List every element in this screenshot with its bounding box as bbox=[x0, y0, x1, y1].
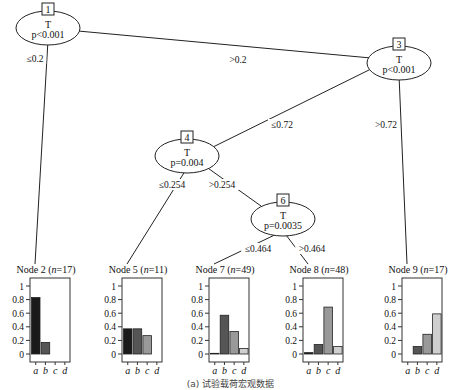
x-category-label: b bbox=[415, 365, 420, 376]
edge-label: ≤0.72 bbox=[271, 120, 293, 130]
p-value: p=0.0035 bbox=[264, 220, 302, 231]
edge-label: ≤0.254 bbox=[159, 180, 186, 190]
inner-node-3: 3Tp<0.001 bbox=[367, 38, 431, 80]
y-tick-label: 1 bbox=[111, 282, 116, 292]
y-tick-label: 0.4 bbox=[12, 322, 24, 332]
x-category-label: a bbox=[212, 365, 217, 376]
x-category-label: d bbox=[241, 365, 247, 376]
x-category-label: b bbox=[43, 365, 48, 376]
bar-c bbox=[324, 307, 333, 354]
inner-node-1: 1Tp<0.001 bbox=[16, 3, 80, 45]
y-tick-label: 0.4 bbox=[285, 322, 297, 332]
y-tick-label: 0.6 bbox=[12, 309, 24, 319]
y-tick-label: 0.8 bbox=[384, 295, 396, 305]
y-tick-label: 0 bbox=[111, 350, 116, 360]
bar-d bbox=[240, 349, 249, 354]
y-tick-label: 0.8 bbox=[104, 295, 116, 305]
bar-b bbox=[133, 329, 142, 354]
y-tick-label: 0 bbox=[19, 350, 24, 360]
bar-a bbox=[305, 353, 314, 354]
terminal-node-title: Node 8 (n=48) bbox=[290, 264, 349, 276]
bar-b bbox=[220, 315, 229, 354]
bar-b bbox=[41, 342, 50, 354]
bar-c bbox=[423, 334, 432, 354]
node-id: 4 bbox=[185, 132, 190, 143]
y-tick-label: 1 bbox=[198, 282, 203, 292]
x-category-label: b bbox=[135, 365, 140, 376]
y-tick-label: 0.6 bbox=[104, 309, 116, 319]
edge-label: >0.254 bbox=[209, 180, 236, 190]
terminal-node-title: Node 5 (n=11) bbox=[109, 264, 168, 276]
edge-label: ≤0.464 bbox=[245, 244, 272, 254]
terminal-nodes: Node 2 (n=17)00.20.40.60.81abcdNode 5 (n… bbox=[12, 264, 447, 376]
x-category-label: c bbox=[232, 365, 237, 376]
terminal-node-title: Node 7 (n=49) bbox=[196, 264, 255, 276]
edge-label: >0.72 bbox=[375, 120, 397, 130]
decision-tree-diagram: ≤0.2>0.2≤0.72>0.72≤0.254>0.254≤0.464>0.4… bbox=[0, 0, 461, 390]
p-value: p<0.001 bbox=[382, 64, 415, 75]
y-tick-label: 0.8 bbox=[285, 295, 297, 305]
y-tick-label: 0 bbox=[198, 350, 203, 360]
edge-label: ≤0.2 bbox=[26, 54, 43, 64]
x-category-label: c bbox=[425, 365, 430, 376]
y-tick-label: 0.2 bbox=[384, 336, 396, 346]
terminal-node-2: Node 2 (n=17)00.20.40.60.81abcd bbox=[12, 264, 75, 376]
edge-label: >0.464 bbox=[299, 244, 326, 254]
x-category-label: d bbox=[62, 365, 68, 376]
p-value: p=0.004 bbox=[170, 157, 203, 168]
figure-caption: (a) 试验载荷宏观数据 bbox=[0, 377, 461, 390]
y-tick-label: 1 bbox=[391, 282, 396, 292]
node-id: 3 bbox=[397, 39, 402, 50]
x-category-label: a bbox=[33, 365, 38, 376]
x-category-label: a bbox=[306, 365, 311, 376]
edge-1-3 bbox=[78, 31, 371, 58]
p-value: p<0.001 bbox=[31, 29, 64, 40]
tree-edges bbox=[35, 31, 407, 264]
y-tick-label: 0.2 bbox=[285, 336, 297, 346]
x-category-label: a bbox=[405, 365, 410, 376]
bar-d bbox=[334, 347, 343, 354]
x-category-label: d bbox=[434, 365, 440, 376]
bar-c bbox=[230, 332, 239, 354]
edge-3-9 bbox=[399, 75, 407, 264]
x-category-label: d bbox=[335, 365, 341, 376]
x-category-label: d bbox=[154, 365, 160, 376]
y-tick-label: 0.2 bbox=[12, 336, 24, 346]
y-tick-label: 0.2 bbox=[104, 336, 116, 346]
y-tick-label: 0.4 bbox=[104, 322, 116, 332]
x-category-label: c bbox=[53, 365, 58, 376]
y-tick-label: 0.4 bbox=[384, 322, 396, 332]
bar-a bbox=[211, 353, 220, 354]
x-category-label: b bbox=[316, 365, 321, 376]
edge-1-2 bbox=[35, 40, 48, 264]
edge-label: >0.2 bbox=[229, 55, 246, 65]
bar-b bbox=[314, 344, 323, 354]
terminal-node-5: Node 5 (n=11)00.20.40.60.81abcd bbox=[104, 264, 167, 376]
y-tick-label: 0.2 bbox=[191, 336, 203, 346]
terminal-node-9: Node 9 (n=17)00.20.40.60.81abcd bbox=[384, 264, 447, 376]
y-tick-label: 1 bbox=[292, 282, 297, 292]
inner-nodes: 1Tp<0.0013Tp<0.0014Tp=0.0046Tp=0.0035 bbox=[16, 3, 431, 236]
x-category-label: c bbox=[326, 365, 331, 376]
y-tick-label: 0.6 bbox=[191, 309, 203, 319]
y-tick-label: 0.6 bbox=[384, 309, 396, 319]
bar-b bbox=[413, 347, 422, 354]
bar-a bbox=[124, 329, 133, 354]
y-tick-label: 0 bbox=[292, 350, 297, 360]
x-category-label: a bbox=[125, 365, 130, 376]
terminal-node-7: Node 7 (n=49)00.20.40.60.81abcd bbox=[191, 264, 254, 376]
terminal-node-title: Node 2 (n=17) bbox=[17, 264, 76, 276]
edge-3-4 bbox=[213, 68, 373, 147]
y-tick-label: 0.8 bbox=[12, 295, 24, 305]
inner-node-4: 4Tp=0.004 bbox=[155, 131, 219, 173]
node-id: 1 bbox=[46, 4, 51, 15]
terminal-node-title: Node 9 (n=17) bbox=[389, 264, 448, 276]
terminal-node-8: Node 8 (n=48)00.20.40.60.81abcd bbox=[285, 264, 348, 376]
y-tick-label: 0.4 bbox=[191, 322, 203, 332]
x-category-label: c bbox=[145, 365, 150, 376]
y-tick-label: 0.6 bbox=[285, 309, 297, 319]
y-tick-label: 0 bbox=[391, 350, 396, 360]
bar-c bbox=[143, 336, 152, 354]
inner-node-6: 6Tp=0.0035 bbox=[251, 194, 315, 236]
y-tick-label: 1 bbox=[19, 282, 24, 292]
